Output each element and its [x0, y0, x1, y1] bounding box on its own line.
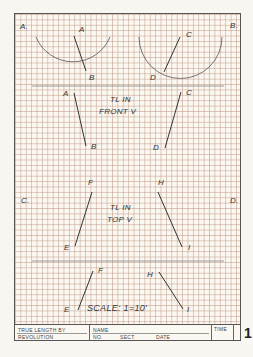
scale-note: SCALE: 1=10' [87, 303, 147, 313]
top-label-h: H [158, 178, 164, 187]
point-label-d: D [150, 73, 156, 82]
sect-label: SECT [120, 334, 135, 340]
bottom-label-h: H [147, 270, 153, 279]
top-label-i: I [188, 243, 191, 252]
bottom-label-e: E [64, 305, 70, 314]
top-view-note-1: TL IN [110, 203, 131, 212]
front-label-c: C [186, 88, 192, 97]
time-label: TIME [214, 326, 227, 332]
sheet-number: 1 [244, 325, 252, 341]
quadrant-label-a: A. [20, 22, 28, 31]
date-label: DATE [156, 334, 170, 340]
front-label-b: B [91, 142, 97, 151]
quadrant-label-d: D. [230, 196, 239, 205]
time-cell: TIME [212, 325, 234, 340]
title-cell: TRUE LENGTH BY REVOLUTION [15, 325, 90, 340]
point-label-a: A [79, 25, 85, 34]
arc-a [36, 37, 110, 62]
top-label-f: F [88, 178, 93, 187]
quadrant-label-c: C. [21, 196, 30, 205]
top-label-e: E [64, 243, 70, 252]
front-label-a: A [63, 89, 69, 98]
top-view-note-2: TOP V [107, 215, 132, 224]
no-label: NO. [93, 334, 103, 340]
front-view-note-1: TL IN [110, 95, 131, 104]
point-label-c: C [186, 30, 192, 39]
front-label-d: D [153, 143, 159, 152]
front-view-note-2: FRONT V [99, 107, 136, 116]
point-label-b: B [89, 73, 95, 82]
name-cell: NAME NO. SECT DATE [90, 325, 212, 340]
bottom-label-f: F [98, 266, 103, 275]
title-block: TRUE LENGTH BY REVOLUTION NAME NO. SECT … [14, 324, 241, 341]
bottom-label-i: I [187, 305, 190, 314]
quadrant-label-b: B. [230, 21, 238, 30]
title-line-2: REVOLUTION [18, 334, 54, 340]
